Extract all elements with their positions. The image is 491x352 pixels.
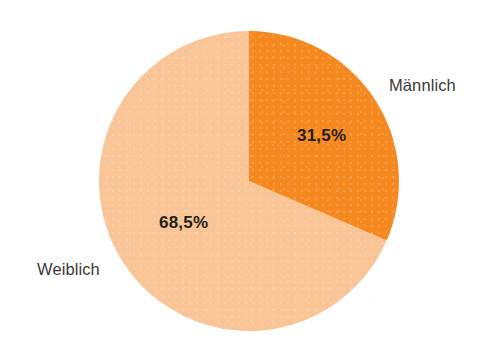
pie-category-label-weiblich: Weiblich <box>37 260 100 279</box>
pie-value-label-maennlich: 31,5% <box>297 126 346 146</box>
pie-value-label-weiblich: 68,5% <box>159 213 208 233</box>
pie-category-label-maennlich: Männlich <box>389 76 456 95</box>
pie-chart-svg <box>0 0 491 352</box>
pie-chart-figure: Männlich Weiblich 31,5% 68,5% <box>0 0 491 352</box>
pie-chart-canvas <box>0 0 491 352</box>
